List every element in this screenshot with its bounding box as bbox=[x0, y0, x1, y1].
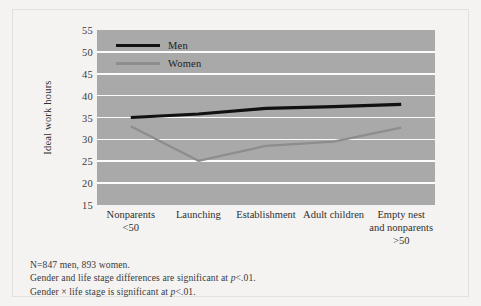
note-sample-size: N=847 men, 893 women. bbox=[30, 258, 450, 271]
y-axis-label: Ideal work hours bbox=[39, 30, 55, 205]
x-axis-tick: Nonparents<50 bbox=[107, 208, 155, 234]
note-significance-main-pre: Gender and life stage differences are si… bbox=[30, 272, 231, 283]
y-axis-tick: 55 bbox=[82, 25, 93, 36]
series-line-men bbox=[131, 104, 401, 117]
series-line-women bbox=[131, 126, 401, 161]
legend-swatch-men-icon bbox=[116, 44, 160, 47]
y-axis-tick-labels: 555045403530252015 bbox=[57, 30, 93, 205]
legend-swatch-women-icon bbox=[116, 62, 160, 64]
x-axis-tick: Launching bbox=[176, 208, 221, 221]
x-axis-tick: Establishment bbox=[236, 208, 296, 221]
chart-legend: Men Women bbox=[116, 38, 201, 74]
y-axis-tick: 30 bbox=[82, 134, 93, 145]
y-axis-tick: 20 bbox=[82, 178, 93, 189]
y-axis-tick: 50 bbox=[82, 46, 93, 57]
x-axis-tick: Adult children bbox=[303, 208, 364, 221]
y-axis-tick: 35 bbox=[82, 112, 93, 123]
legend-label-women: Women bbox=[168, 58, 201, 69]
note-significance-main-post: <.01. bbox=[236, 272, 256, 283]
y-axis-tick: 15 bbox=[82, 200, 93, 211]
figure-container: Ideal work hours 555045403530252015 Men … bbox=[0, 0, 481, 306]
x-axis-tick: Empty nestand nonparents>50 bbox=[369, 208, 433, 247]
x-axis-tick-labels: Nonparents<50LaunchingEstablishmentAdult… bbox=[97, 208, 435, 254]
figure-notes: N=847 men, 893 women. Gender and life st… bbox=[30, 258, 450, 298]
legend-item-men: Men bbox=[116, 38, 201, 53]
note-significance-main: Gender and life stage differences are si… bbox=[30, 271, 450, 284]
note-significance-interaction-post: <.01. bbox=[175, 286, 195, 297]
y-axis-tick: 45 bbox=[82, 68, 93, 79]
note-significance-interaction: Gender × life stage is significant at p<… bbox=[30, 285, 450, 298]
y-axis-tick: 40 bbox=[82, 90, 93, 101]
note-significance-interaction-pre: Gender × life stage is significant at bbox=[30, 286, 171, 297]
legend-label-men: Men bbox=[168, 40, 188, 51]
y-axis-tick: 25 bbox=[82, 156, 93, 167]
legend-item-women: Women bbox=[116, 56, 201, 71]
